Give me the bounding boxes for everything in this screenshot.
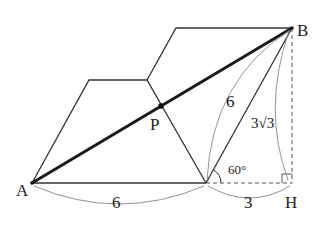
point-A-dot: [30, 181, 34, 185]
diagram-svg: A B H P 6 6 3 3√3 60°: [0, 0, 325, 235]
geometry-diagram: A B H P 6 6 3 3√3 60°: [0, 0, 325, 235]
measure-CB: 6: [226, 92, 235, 111]
measure-CH: 3: [244, 193, 253, 212]
measure-AC: 6: [112, 193, 121, 212]
label-P: P: [150, 115, 159, 134]
angle-arc-60: [214, 170, 222, 183]
segment-CB: [206, 28, 292, 183]
point-P-dot: [158, 103, 164, 109]
label-B: B: [297, 21, 308, 40]
label-H: H: [285, 193, 297, 212]
measure-BH: 3√3: [251, 115, 274, 131]
measure-angle: 60°: [228, 162, 246, 177]
point-B-dot: [290, 26, 294, 30]
label-A: A: [16, 181, 29, 200]
